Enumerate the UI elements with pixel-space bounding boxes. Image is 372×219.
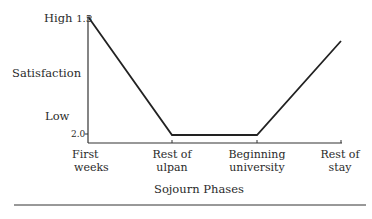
x-label-first-weeks: Firstweeks [52, 148, 132, 174]
x-label-rest-of-ulpan: Rest ofulpan [132, 148, 212, 174]
x-label-rest-of-stay: Rest ofstay [300, 148, 372, 174]
x-axis-title: Sojourn Phases [154, 183, 244, 196]
y-axis-title: Satisfaction [12, 67, 81, 80]
y-low-label: Low [45, 110, 69, 123]
y-high-label: High 1.5 [44, 12, 92, 25]
x-label-beginning-university: Beginninguniversity [217, 148, 297, 174]
y-tick-bottom: 2.0 [71, 129, 85, 139]
